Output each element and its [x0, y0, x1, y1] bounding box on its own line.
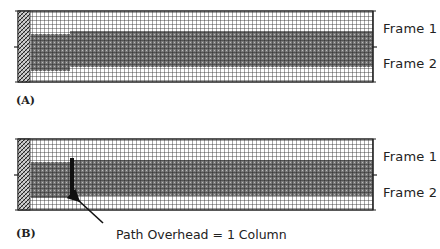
panel-a: Frame 1 Frame 2 (A): [0, 0, 440, 120]
frame-band-right: [70, 31, 373, 67]
frame-grid-a: [0, 0, 440, 120]
frame-2-label: Frame 2: [383, 56, 437, 71]
frame-band-left: [31, 162, 70, 198]
panel-b-label: (B): [16, 227, 36, 240]
frame-1-label: Frame 1: [383, 149, 437, 164]
hatched-column: [18, 11, 30, 82]
frame-2-label: Frame 2: [383, 185, 437, 200]
hatched-column: [18, 139, 30, 210]
panel-a-label: (A): [16, 94, 35, 107]
path-overhead-annotation: Path Overhead = 1 Column: [116, 227, 287, 242]
panel-b: Frame 1 Frame 2 (B) Path Overhead = 1 Co…: [0, 128, 440, 249]
frame-band-right: [74, 160, 373, 196]
path-overhead-column: [70, 158, 74, 196]
frame-band-left: [31, 34, 70, 71]
frame-1-label: Frame 1: [383, 21, 437, 36]
